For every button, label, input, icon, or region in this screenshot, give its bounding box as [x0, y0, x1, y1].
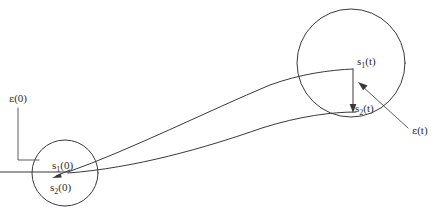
- epsilon-initial-leader: [18, 108, 39, 160]
- label-s1-initial: s1(0): [52, 160, 73, 174]
- epsilon-final-leader-head: [358, 82, 368, 90]
- trajectory-lower: [68, 112, 356, 173]
- label-s2-final: s2(t): [355, 103, 374, 117]
- label-epsilon-final: ε(t): [412, 125, 428, 136]
- label-s1-final: s1(t): [357, 56, 376, 70]
- label-s2-initial: s2(0): [50, 182, 71, 196]
- label-epsilon-initial: ε(0): [9, 93, 27, 104]
- final-state-ball: [297, 9, 405, 117]
- lyapunov-divergence-figure: s1(0) s2(0) s1(t) s2(t) ε(0) ε(t): [0, 0, 443, 213]
- trajectory-upper: [68, 69, 353, 172]
